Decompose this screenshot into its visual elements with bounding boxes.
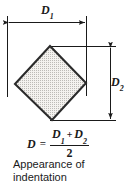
figure-caption: Appearance of indentation [13,158,129,184]
figure-caption-line-2: indentation [13,171,129,184]
formula-numerator-right-symbol: D [74,128,83,140]
indentation-diagram [0,0,129,130]
dimension-label-d1-symbol: D [41,3,50,17]
dimension-label-d2-subscript: 2 [120,84,124,93]
formula-fraction: D1 + D2 2 [50,128,89,158]
formula-numerator: D1 + D2 [50,128,89,144]
formula-block: D = D1 + D2 2 [0,130,129,157]
figure-appearance-of-indentation: D1 D2 D = D1 + D2 2 Appearance of indent… [0,0,129,186]
formula-denominator: 2 [66,146,72,159]
dimension-label-d1-subscript: 1 [50,12,54,21]
indentation-diamond-shape [15,46,86,120]
formula-numerator-left-symbol: D [52,128,61,140]
dimension-label-d1: D1 [41,4,54,19]
formula-equals-sign: = [40,138,46,149]
dimension-label-d2-symbol: D [111,75,120,89]
formula-result-symbol: D [27,138,36,150]
formula-plus-sign: + [67,130,73,140]
figure-caption-line-1: Appearance of [13,158,129,171]
formula-numerator-right-subscript: 2 [83,137,87,146]
formula-numerator-left-subscript: 1 [61,137,65,146]
dimension-label-d2: D2 [111,76,124,91]
